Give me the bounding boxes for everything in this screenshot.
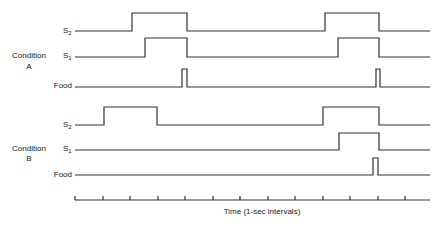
trace-condition-b-s2: [75, 107, 430, 125]
timing-diagram: Condition A Condition B S2 S1 Food S2 S1…: [0, 0, 441, 228]
trace-condition-b-s1: [75, 133, 430, 150]
time-axis-label: Time (1-sec intervals): [224, 207, 301, 216]
condition-b-label-line2: B: [26, 154, 31, 163]
signal-label-b-food: Food: [54, 170, 72, 179]
trace-condition-b-food: [75, 158, 430, 175]
condition-a-label-line2: A: [26, 62, 32, 71]
signal-traces: [75, 13, 430, 175]
signal-label-b-s2: S2: [63, 120, 72, 130]
trace-condition-a-s1: [75, 38, 430, 57]
signal-label-a-s1: S1: [63, 51, 72, 61]
time-axis: [75, 196, 430, 200]
condition-a-label-line1: Condition: [12, 51, 46, 60]
signal-label-a-food: Food: [54, 81, 72, 90]
signal-label-a-s2: S2: [63, 26, 72, 36]
condition-b-label-line1: Condition: [12, 144, 46, 153]
trace-condition-a-food: [75, 69, 430, 87]
signal-label-b-s1: S1: [63, 144, 72, 154]
trace-condition-a-s2: [75, 13, 430, 31]
